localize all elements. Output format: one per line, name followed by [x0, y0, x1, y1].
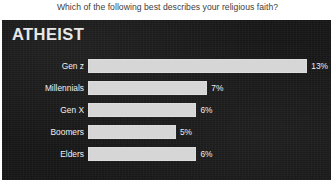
bar [88, 81, 207, 95]
bar-category-label: Elders [2, 147, 84, 161]
bar [88, 125, 176, 139]
bar-value-label: 6% [200, 103, 212, 117]
bar-category-label: Millennials [2, 81, 84, 95]
bar-row: Elders6% [2, 147, 331, 169]
bar-row: Boomers5% [2, 125, 331, 147]
bar-value-label: 7% [211, 81, 223, 95]
chart-category-heading: ATHEIST [12, 25, 84, 44]
bar [88, 147, 196, 161]
bar-rows: Gen z13%Millennials7%Gen X6%Boomers5%Eld… [2, 59, 331, 169]
bar-row: Millennials7% [2, 81, 331, 103]
bar [88, 59, 307, 73]
bar-track: 6% [88, 103, 329, 117]
bar-category-label: Gen z [2, 59, 84, 73]
bar-value-label: 5% [180, 125, 192, 139]
chart-panel: ATHEIST Gen z13%Millennials7%Gen X6%Boom… [2, 20, 331, 180]
bar-track: 6% [88, 147, 329, 161]
bar-value-label: 6% [200, 147, 212, 161]
bar-track: 5% [88, 125, 329, 139]
bar-row: Gen z13% [2, 59, 331, 81]
bar-value-label: 13% [311, 59, 328, 73]
bar-track: 13% [88, 59, 329, 73]
bar-track: 7% [88, 81, 329, 95]
bar-category-label: Gen X [2, 103, 84, 117]
bar [88, 103, 196, 117]
chart-page: Which of the following best describes yo… [0, 0, 335, 191]
bar-category-label: Boomers [2, 125, 84, 139]
bar-row: Gen X6% [2, 103, 331, 125]
survey-question: Which of the following best describes yo… [0, 1, 335, 13]
